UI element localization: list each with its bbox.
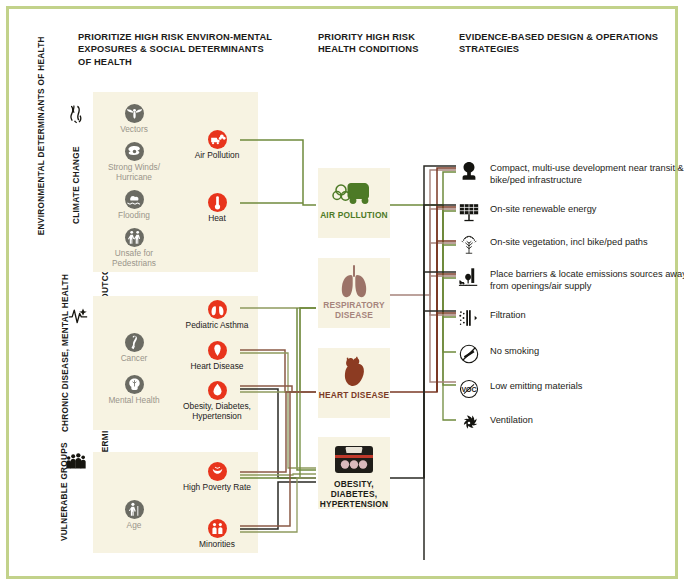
strategy-text: No smoking (490, 343, 684, 365)
strategy-text: Low emitting materials (490, 378, 684, 400)
solar-panel-icon (458, 201, 480, 223)
condition-heart-disease[interactable]: HEART DISEASE (318, 348, 390, 418)
strategy-compact-development[interactable]: Compact, multi-use development near tran… (458, 160, 684, 186)
strategy-no-smoking[interactable]: No smoking (458, 343, 684, 365)
condition-label: OBESITY, DIABETES, HYPERTENSION (318, 480, 390, 514)
strategy-text: On-site vegetation, incl bike/ped paths (490, 234, 684, 256)
condition-air-pollution[interactable]: AIR POLLUTION (318, 168, 390, 238)
condition-label: HEART DISEASE (318, 391, 390, 406)
condition-label: RESPIRATORY DISEASE (318, 301, 390, 326)
vegetation-tree-icon (458, 234, 480, 256)
strategy-text: Compact, multi-use development near tran… (490, 160, 684, 186)
condition-obesity-diabetes-hypertension[interactable]: OBESITY, DIABETES, HYPERTENSION (318, 437, 390, 509)
infographic-root: PRIORITIZE HIGH RISK ENVIRON-MENTAL EXPO… (0, 0, 684, 585)
scale-icon (318, 443, 390, 479)
strategy-renewable-energy[interactable]: On-site renewable energy (458, 201, 684, 223)
strategy-onsite-vegetation[interactable]: On-site vegetation, incl bike/ped paths (458, 234, 684, 256)
lungs-icon (318, 264, 390, 300)
filtration-icon (458, 307, 480, 329)
strategy-place-barriers[interactable]: Place barriers & locate emissions source… (458, 266, 684, 292)
barrier-icon (458, 266, 480, 288)
strategy-low-emitting-materials[interactable]: VOC Low emitting materials (458, 378, 684, 400)
condition-respiratory-disease[interactable]: RESPIRATORY DISEASE (318, 258, 390, 328)
tree-silhouette-icon (458, 160, 480, 182)
voc-icon: VOC (458, 378, 480, 400)
strategy-text: Ventilation (490, 412, 684, 434)
condition-label: AIR POLLUTION (318, 211, 390, 226)
no-smoking-icon (458, 343, 480, 365)
strategy-text: Filtration (490, 307, 684, 329)
strategy-ventilation[interactable]: Ventilation (458, 412, 684, 434)
strategy-text: Place barriers & locate emissions source… (490, 266, 684, 292)
ventilation-fan-icon (458, 412, 480, 434)
smog-cloud-icon (318, 174, 390, 210)
strategy-text: On-site renewable energy (490, 201, 684, 223)
strategy-filtration[interactable]: Filtration (458, 307, 684, 329)
anatomical-heart-icon (318, 354, 390, 390)
